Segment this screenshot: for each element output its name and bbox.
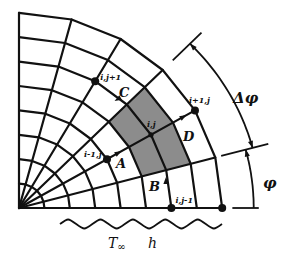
ambient-temperature-label: T∞ <box>108 235 126 252</box>
phi-label: φ <box>263 174 277 192</box>
cell-label-B: B <box>148 179 160 194</box>
dimension-arrowhead <box>245 150 250 158</box>
delta-phi-label: Δφ <box>232 89 259 107</box>
cell-label-A: A <box>114 156 126 171</box>
phi-arc <box>246 150 254 208</box>
angle-dimensions <box>173 33 269 208</box>
convection-boundary-wave <box>60 220 222 229</box>
cell-label-C: C <box>119 85 130 100</box>
convection-coefficient-label: h <box>148 235 157 251</box>
node-im1j <box>103 155 111 163</box>
grid-radial-line <box>19 19 72 208</box>
node-ijp1 <box>91 77 99 85</box>
node-ij <box>148 132 153 137</box>
cell-label-D: D <box>182 129 195 144</box>
extension-line <box>221 144 268 156</box>
node-ijm1 <box>167 204 175 212</box>
node-ip1j <box>191 106 199 114</box>
node-label-ij: i,j <box>147 119 156 129</box>
node-label-ijm1: i,j-1 <box>175 195 193 205</box>
infinity-subscript: ∞ <box>117 241 125 252</box>
dimension-arrowhead <box>248 140 253 148</box>
node-label-ijp1: i,j+1 <box>100 72 121 82</box>
extension-line <box>173 33 202 61</box>
node-label-im1j: i-1,j <box>84 149 102 159</box>
node-outer <box>218 204 226 212</box>
polar-grid-diagram: Δφ φ T∞ h i,ji+1,ji-1,ji,j+1i,j-1ABCD <box>0 0 286 265</box>
node-label-ip1j: i+1,j <box>189 95 210 105</box>
